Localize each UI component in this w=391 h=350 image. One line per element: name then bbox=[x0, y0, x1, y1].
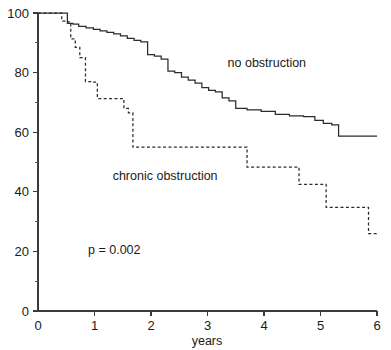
y-tick-label: 80 bbox=[15, 65, 29, 80]
y-tick-label: 40 bbox=[15, 184, 29, 199]
y-tick-label: 0 bbox=[22, 304, 29, 319]
y-tick-label: 100 bbox=[7, 6, 29, 21]
y-axis-tick-labels: 020406080100 bbox=[7, 6, 29, 319]
x-tick-label: 1 bbox=[91, 318, 98, 333]
x-tick-label: 5 bbox=[317, 318, 324, 333]
x-axis-major-ticks bbox=[95, 311, 378, 316]
y-tick-label: 20 bbox=[15, 244, 29, 259]
series-line-no-obstruction bbox=[38, 13, 377, 136]
axis-group bbox=[38, 13, 377, 311]
survival-chart-figure: 020406080100 0123456 years no obstructio… bbox=[0, 0, 391, 350]
y-tick-label: 60 bbox=[15, 125, 29, 140]
x-tick-label: 3 bbox=[204, 318, 211, 333]
chart-canvas: 020406080100 0123456 years no obstructio… bbox=[0, 0, 391, 350]
x-tick-label: 4 bbox=[260, 318, 267, 333]
series-label-chronic-obstruction: chronic obstruction bbox=[113, 169, 218, 183]
x-tick-label: 0 bbox=[34, 318, 41, 333]
x-axis-title: years bbox=[192, 334, 223, 348]
x-tick-label: 6 bbox=[373, 318, 380, 333]
x-tick-label: 2 bbox=[147, 318, 154, 333]
p-value-annotation: p = 0.002 bbox=[88, 243, 141, 257]
series-label-no-obstruction: no obstruction bbox=[228, 56, 307, 70]
x-axis-tick-labels: 0123456 bbox=[34, 318, 380, 333]
